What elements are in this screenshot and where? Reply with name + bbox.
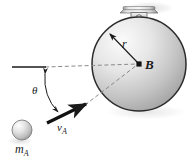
physics-diagram-canvas: r θ vA mA B	[0, 0, 194, 157]
pivot-plate-top	[123, 7, 155, 10]
mass-ball	[12, 120, 32, 140]
center-label: B	[144, 57, 154, 72]
velocity-arrow	[47, 104, 86, 123]
velocity-label: vA	[57, 121, 67, 136]
angle-arc	[45, 74, 58, 112]
mass-symbol: m	[15, 142, 24, 156]
radius-label: r	[122, 37, 127, 51]
mass-subscript: A	[23, 149, 29, 157]
center-dot	[136, 61, 141, 66]
physics-diagram-svg: r θ vA mA B	[0, 0, 194, 157]
angle-label: θ	[32, 84, 38, 96]
velocity-subscript: A	[61, 127, 67, 136]
